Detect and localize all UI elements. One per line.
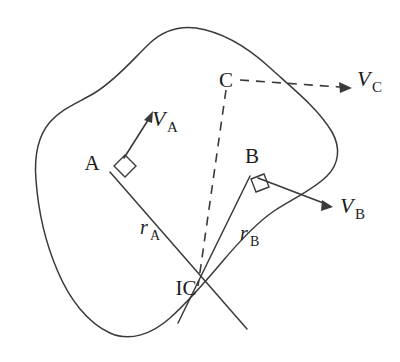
- right-angle-marker-b: [251, 174, 269, 192]
- radius-label-ra: r A: [140, 216, 161, 243]
- vector-label-vb: V B: [340, 193, 365, 222]
- vector-label-vc-main: V: [357, 66, 373, 91]
- velocity-vector-b-arrowhead: [321, 200, 333, 211]
- point-label-c: C: [219, 68, 233, 92]
- radius-line-a: [110, 172, 247, 329]
- vector-label-vb-subscript: B: [355, 206, 365, 222]
- point-label-a: A: [84, 151, 100, 175]
- radius-label-rb-main: r: [240, 222, 248, 244]
- point-label-ic: IC: [176, 276, 197, 300]
- radius-label-rb-subscript: B: [250, 234, 259, 249]
- radius-line-b: [178, 176, 250, 323]
- vector-label-vb-main: V: [340, 193, 356, 218]
- vector-label-vc: V C: [357, 66, 382, 95]
- kinematics-diagram: A B C IC V A V B V C r A r B: [0, 0, 400, 362]
- right-angle-marker-a: [114, 155, 136, 177]
- vector-label-va-main: V: [152, 106, 168, 131]
- velocity-vector-a-shaft: [124, 117, 150, 158]
- velocity-vector-c-arrowhead: [339, 82, 352, 93]
- radius-label-ra-main: r: [140, 216, 148, 238]
- vector-label-vc-subscript: C: [372, 79, 382, 95]
- dashed-connector-c-to-ic: [198, 90, 226, 286]
- vector-label-va: V A: [152, 106, 178, 135]
- point-label-b: B: [245, 144, 259, 168]
- diagram-canvas: A B C IC V A V B V C r A r B: [0, 0, 400, 362]
- radius-label-ra-subscript: A: [150, 228, 161, 243]
- vector-label-va-subscript: A: [167, 119, 178, 135]
